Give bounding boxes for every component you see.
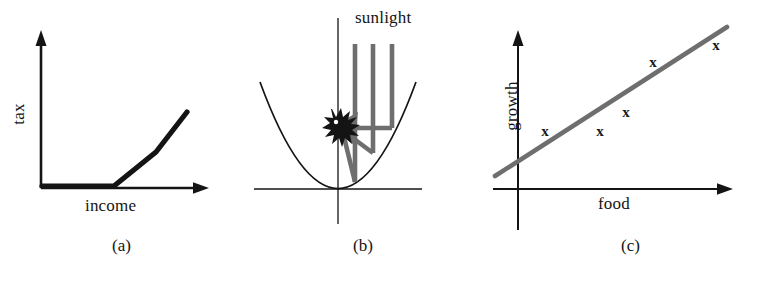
three-panel-figure: tax income (a) bbox=[0, 0, 765, 281]
panel-a-tax-curve bbox=[42, 112, 187, 186]
panel-b-sunlight-label: sunlight bbox=[355, 8, 411, 28]
panel-b-caption: (b) bbox=[353, 236, 373, 256]
panel-c-data-marker: x bbox=[649, 54, 657, 71]
panel-a-y-axis-label: tax bbox=[9, 89, 29, 139]
panel-c-x-axis bbox=[493, 183, 733, 194]
panel-c-data-marker: x bbox=[622, 104, 630, 121]
panel-c-caption: (c) bbox=[621, 236, 640, 256]
panel-c-data-marker: x bbox=[596, 123, 604, 140]
panel-c-x-axis-label: food bbox=[598, 194, 630, 214]
panel-a-caption: (a) bbox=[112, 236, 131, 256]
panel-c-fit-line bbox=[495, 27, 727, 176]
panel-a-tax-income-chart: tax income (a) bbox=[0, 0, 250, 281]
panel-a-x-axis-label: income bbox=[85, 196, 136, 216]
panel-a-y-axis bbox=[36, 30, 47, 188]
panel-b-parabolic-mirror-diagram: sunlight (b) bbox=[250, 0, 485, 281]
panel-c-data-marker: x bbox=[712, 37, 720, 54]
panel-c-y-axis-label: growth bbox=[502, 70, 522, 142]
panel-b-sunlight-rays bbox=[355, 44, 392, 182]
panel-c-data-marker: x bbox=[541, 123, 549, 140]
panel-c-growth-food-scatter: x x x x x growth food (c) bbox=[485, 0, 765, 281]
